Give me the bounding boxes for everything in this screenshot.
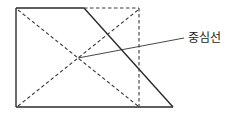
centerline-label: 중심선 [188, 31, 221, 45]
slanted-edge [84, 8, 173, 107]
leader-line [78, 38, 184, 58]
centerline-diagram: 중심선 [0, 0, 242, 115]
